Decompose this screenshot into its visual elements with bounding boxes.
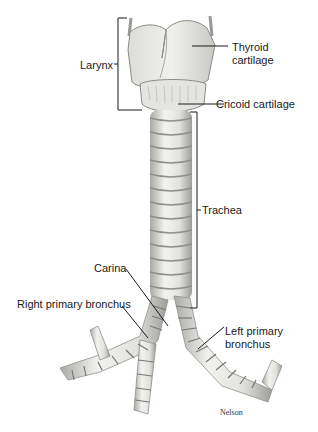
right-bronchus [60, 296, 168, 414]
thyroid-cartilage [128, 16, 215, 89]
artist-signature: Nelson [220, 408, 243, 417]
label-left-primary-bronchus-line2: bronchus [225, 338, 270, 350]
label-carina: Carina [94, 262, 126, 274]
label-left-primary-bronchus-line1: Left primary [225, 325, 283, 337]
label-thyroid-cartilage-line2: cartilage [232, 54, 274, 66]
label-right-primary-bronchus: Right primary bronchus [17, 298, 131, 310]
trachea [150, 110, 192, 300]
label-trachea: Trachea [202, 204, 242, 216]
label-cricoid-cartilage: Cricoid cartilage [216, 98, 295, 110]
cricoid-cartilage [140, 80, 206, 112]
label-larynx: Larynx [80, 59, 113, 71]
label-thyroid-cartilage-line1: Thyroid [232, 41, 269, 53]
